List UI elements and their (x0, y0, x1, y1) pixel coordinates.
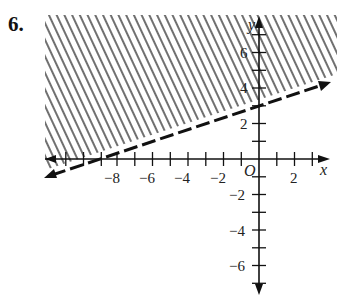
y-tick-label: −6 (229, 258, 245, 274)
x-tick-label: 2 (290, 170, 298, 186)
x-tick-label: −2 (210, 170, 226, 186)
boundary-arrow-right-icon (318, 81, 331, 91)
y-tick-label: 4 (240, 80, 248, 96)
x-tick-label: −8 (104, 170, 120, 186)
x-tick-label: −4 (174, 170, 190, 186)
origin-label: O (244, 162, 256, 179)
y-tick-label: −2 (229, 187, 245, 203)
y-tick-label: 6 (240, 45, 248, 61)
x-axis-label: x (319, 161, 327, 178)
boundary-arrow-left-icon (44, 169, 57, 178)
y-axis-label: y (246, 16, 256, 34)
inequality-graph: −8 −6 −4 −2 2 6 4 2 −2 −4 −6 x y O (0, 0, 337, 297)
y-tick-label: −4 (229, 223, 245, 239)
y-tick-label: 2 (240, 116, 248, 132)
x-tick-label: −6 (139, 170, 155, 186)
